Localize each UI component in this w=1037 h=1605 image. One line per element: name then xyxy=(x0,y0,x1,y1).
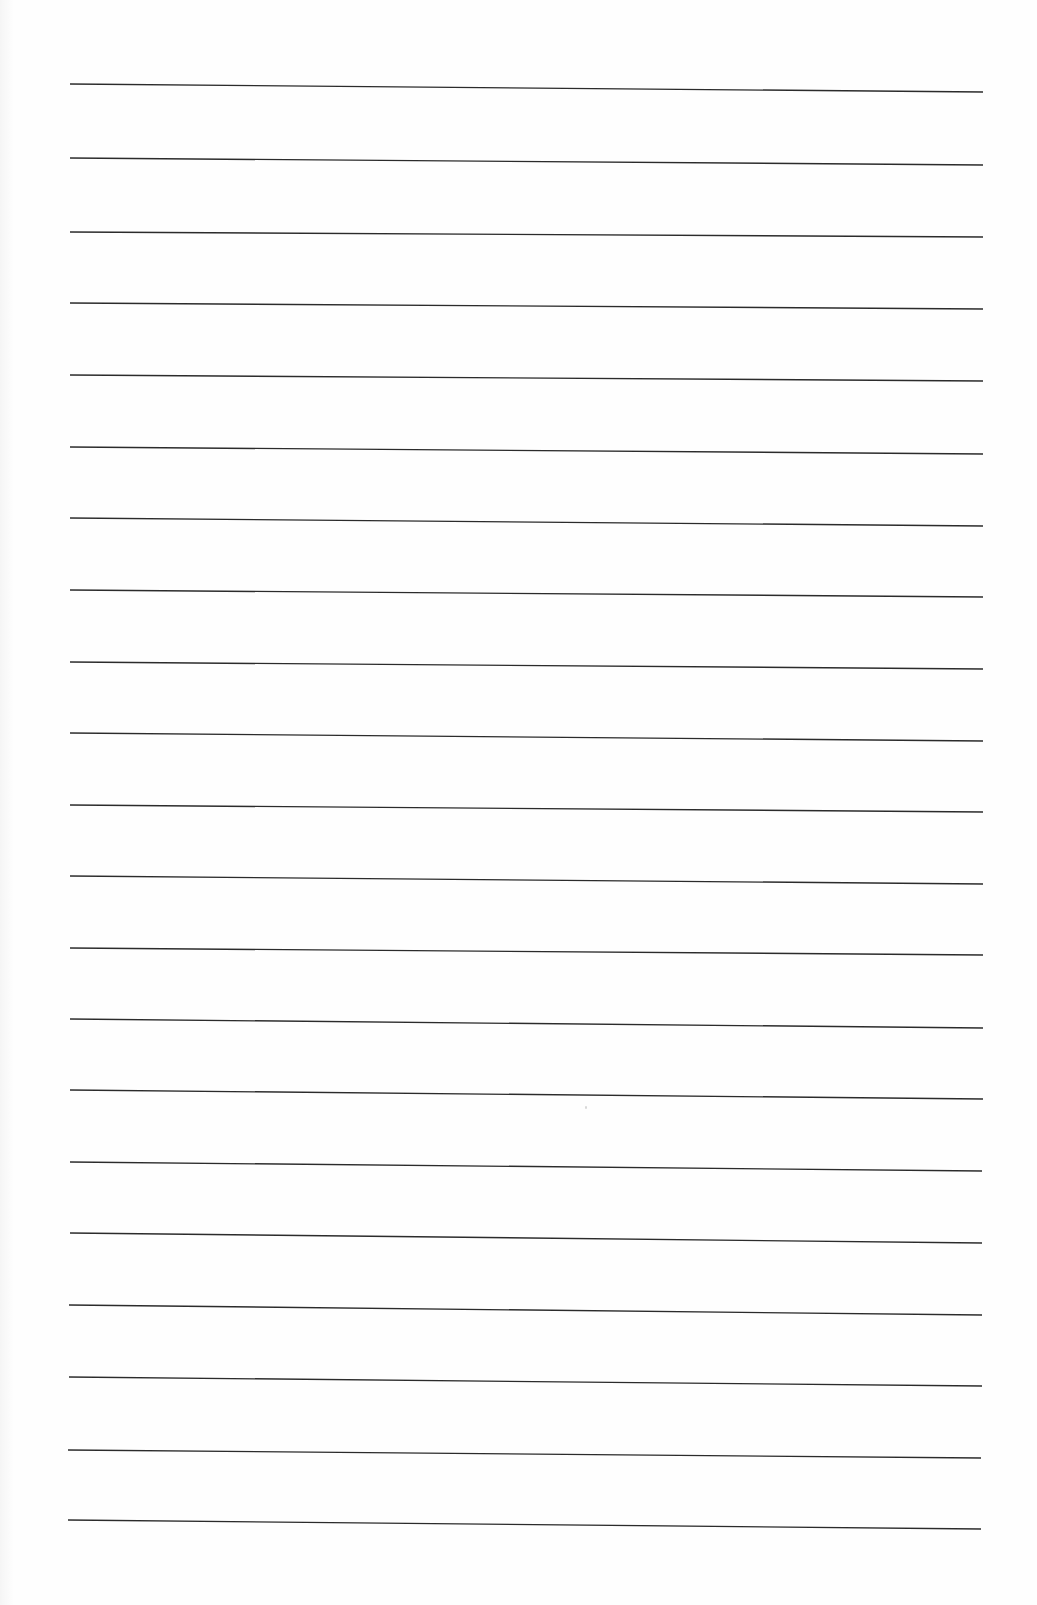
ruled-line-5 xyxy=(70,375,983,381)
ruled-line-18 xyxy=(69,1305,982,1315)
ruled-line-7 xyxy=(70,518,983,526)
ruled-line-13 xyxy=(70,948,983,955)
ruled-line-2 xyxy=(70,158,983,165)
ruled-line-20 xyxy=(68,1450,981,1458)
ruled-line-10 xyxy=(70,733,983,741)
ruled-line-3 xyxy=(70,232,983,237)
ruled-line-11 xyxy=(70,805,983,812)
ruled-line-1 xyxy=(70,84,983,92)
ruled-line-14 xyxy=(70,1019,983,1028)
ruled-line-16 xyxy=(70,1162,982,1171)
ruled-line-4 xyxy=(70,303,983,309)
paper-speck xyxy=(585,1106,587,1109)
ruled-line-19 xyxy=(69,1377,982,1386)
ruled-line-21 xyxy=(68,1520,981,1529)
ruled-lines xyxy=(0,0,1037,1605)
ruled-line-9 xyxy=(70,662,983,669)
ruled-line-8 xyxy=(70,590,983,597)
ruled-line-15 xyxy=(70,1090,983,1099)
ruled-line-17 xyxy=(70,1233,982,1243)
ruled-paper-page xyxy=(0,0,1037,1605)
ruled-line-12 xyxy=(70,876,983,884)
ruled-line-6 xyxy=(70,447,983,454)
